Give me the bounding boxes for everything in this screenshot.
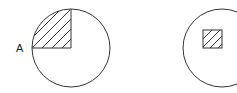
point-label-a: A xyxy=(16,42,24,54)
left-figure: A xyxy=(0,9,110,87)
right-figure xyxy=(183,9,237,87)
diagram-canvas: A xyxy=(0,0,237,93)
